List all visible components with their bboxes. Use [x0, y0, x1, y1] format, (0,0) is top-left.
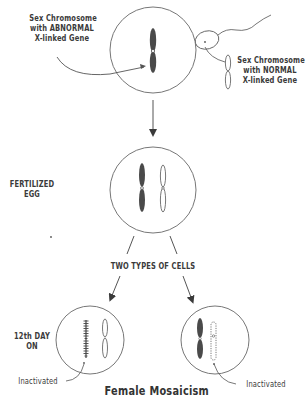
- fertilized-egg-cell: [110, 147, 196, 233]
- arrow-to-cell-b: [183, 276, 192, 300]
- label-line: Sex Chromosome: [29, 13, 95, 23]
- fertilized-egg-label: FERTILIZED EGG: [9, 179, 55, 199]
- normal-chromosome-label: Sex Chromosome with NORMAL X-linked Gene: [237, 55, 303, 85]
- abnormal-chromosome-label: Sex Chromosome with ABNORMAL X-linked Ge…: [29, 13, 95, 43]
- day-12-label: 12th DAY ON: [14, 331, 50, 351]
- inactivated-right-label: Inactivated: [241, 379, 290, 389]
- label-line: with ABNORMAL: [29, 23, 95, 33]
- label-line: EGG: [9, 189, 55, 199]
- normal-chromosome-icon: [225, 55, 230, 89]
- two-types-of-cells-label: TWO TYPES OF CELLS: [98, 261, 208, 271]
- sperm-icon: [193, 15, 271, 52]
- label-line: X-linked Gene: [29, 33, 95, 43]
- active-normal-chromosome-icon: [103, 319, 108, 358]
- label-line: ON: [14, 341, 50, 351]
- abnormal-chromosome-icon: [139, 163, 145, 212]
- label-line: Sex Chromosome: [237, 55, 303, 65]
- abnormal-pointer-line: [57, 57, 144, 75]
- cell-normal-inactivated: [181, 306, 249, 374]
- active-abnormal-chromosome-icon: [197, 318, 203, 359]
- normal-chromosome-icon: [160, 165, 165, 212]
- abnormal-chromosome-icon: [150, 28, 156, 73]
- inactivated-abnormal-chromosome-icon: [84, 320, 89, 358]
- label-line: with NORMAL: [237, 65, 303, 75]
- egg-cell: [110, 7, 196, 93]
- label-line: FERTILIZED: [9, 179, 55, 189]
- inactivated-normal-chromosome-icon: [211, 322, 216, 360]
- diagram-title: Female Mosaicism: [105, 384, 202, 398]
- branch-line-left-upper: [127, 236, 134, 254]
- label-line: 12th DAY: [14, 331, 50, 341]
- cell-abnormal-inactivated: [56, 306, 124, 374]
- arrow-to-cell-a: [111, 276, 120, 298]
- inactivated-left-label: Inactivated: [15, 376, 61, 386]
- label-line: X-linked Gene: [237, 75, 303, 85]
- branch-line-right-upper: [170, 236, 177, 254]
